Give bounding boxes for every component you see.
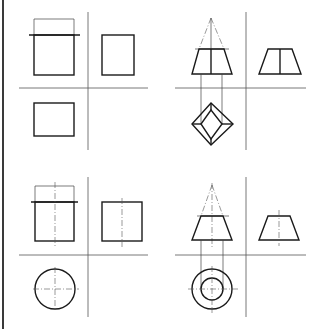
side-view (102, 35, 134, 75)
orthographic-drawing (0, 0, 321, 329)
top-view (192, 103, 233, 145)
side-view (102, 198, 142, 247)
top-view (34, 103, 74, 136)
panel-prism (19, 12, 148, 150)
panel-cylinder (19, 177, 148, 317)
top-view (188, 266, 238, 313)
front-view (192, 183, 232, 289)
front-view (31, 182, 78, 247)
panel-cone (175, 177, 306, 317)
panel-pyramid (175, 12, 306, 150)
top-view (33, 267, 79, 311)
front-view (29, 19, 80, 75)
side-view (259, 49, 301, 74)
side-view (259, 210, 299, 246)
front-view (192, 18, 232, 124)
